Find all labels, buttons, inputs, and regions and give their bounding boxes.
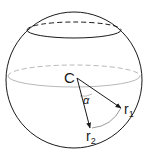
r1-r2-arc — [92, 108, 121, 128]
sphere-diagram: C α r1 r2 — [0, 0, 148, 153]
r2-label-sub: 2 — [91, 136, 96, 146]
top-cap-back — [27, 22, 121, 30]
r1-label-sub: 1 — [129, 109, 134, 119]
angle-label: α — [83, 94, 90, 106]
r2-label: r2 — [86, 128, 96, 146]
center-label: C — [64, 69, 75, 86]
top-cap-front — [27, 30, 121, 38]
r1-label: r1 — [124, 101, 134, 119]
